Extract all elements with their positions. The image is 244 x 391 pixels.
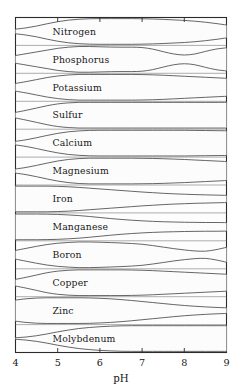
band-label-sulfur: Sulfur: [53, 109, 84, 120]
band-label-nitrogen: Nitrogen: [53, 26, 97, 37]
x-tick-label: 8: [181, 357, 187, 368]
band-label-zinc: Zinc: [53, 305, 74, 316]
band-label-iron: Iron: [53, 193, 73, 204]
chart-svg: NitrogenPhosphorusPotassiumSulfurCalcium…: [0, 0, 244, 391]
band-fill-area: [16, 74, 227, 100]
band-label-calcium: Calcium: [53, 137, 93, 148]
band-label-boron: Boron: [53, 249, 82, 260]
x-tick-label: 6: [97, 357, 103, 368]
band-label-copper: Copper: [53, 277, 89, 288]
x-tick-label: 7: [139, 357, 145, 368]
band-label-molybdenum: Molybdenum: [53, 333, 116, 344]
x-tick-label: 9: [223, 357, 229, 368]
band-label-manganese: Manganese: [53, 221, 109, 232]
band-label-potassium: Potassium: [53, 82, 102, 93]
band-label-magnesium: Magnesium: [53, 165, 109, 176]
band-label-phosphorus: Phosphorus: [53, 54, 110, 65]
band-fill-area: [16, 102, 227, 128]
band-fill-area: [16, 270, 227, 296]
x-tick-label: 5: [55, 357, 61, 368]
x-tick-label: 4: [12, 357, 18, 368]
x-axis-title: pH: [113, 373, 129, 384]
nutrient-band: [16, 102, 227, 128]
ph-nutrient-availability-chart: NitrogenPhosphorusPotassiumSulfurCalcium…: [0, 0, 244, 391]
nutrient-band: [16, 270, 227, 296]
nutrient-band: [16, 74, 227, 100]
